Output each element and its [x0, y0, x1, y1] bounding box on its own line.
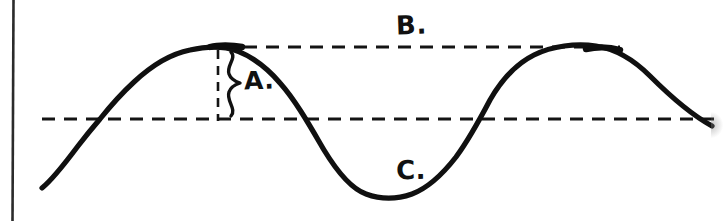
left-page-edge-line	[13, 0, 14, 221]
wave-diagram-figure: A. B. C.	[0, 0, 723, 221]
amplitude-label: A.	[244, 68, 275, 94]
wave-diagram-canvas	[0, 0, 723, 221]
crest-1-ink-blob	[210, 46, 242, 48]
crest-2-ink-blob	[586, 48, 620, 50]
trough-label: C.	[396, 157, 426, 184]
crest-line-label: B.	[396, 11, 428, 38]
